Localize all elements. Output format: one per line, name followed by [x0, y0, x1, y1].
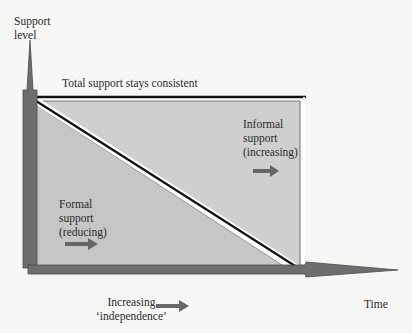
y-axis-arrow-icon — [23, 40, 37, 268]
support-diagram — [0, 0, 412, 333]
informal-line2: support — [243, 131, 298, 145]
y-axis-label-line1: Support — [14, 14, 50, 28]
formal-support-label: Formal support (reducing) — [59, 197, 107, 239]
y-axis-label-line2: level — [14, 28, 50, 42]
informal-line3: (increasing) — [243, 145, 298, 159]
y-axis-label: Support level — [14, 14, 50, 42]
independence-line1: Increasing — [96, 295, 167, 309]
x-axis-label: Time — [364, 297, 388, 311]
formal-line1: Formal — [59, 197, 107, 211]
independence-line2: ‘independence’ — [96, 309, 167, 323]
informal-support-label: Informal support (increasing) — [243, 117, 298, 159]
formal-line2: support — [59, 211, 107, 225]
informal-line1: Informal — [243, 117, 298, 131]
formal-line3: (reducing) — [59, 225, 107, 239]
total-support-label: Total support stays consistent — [62, 76, 198, 90]
independence-label: Increasing ‘independence’ — [96, 295, 167, 323]
